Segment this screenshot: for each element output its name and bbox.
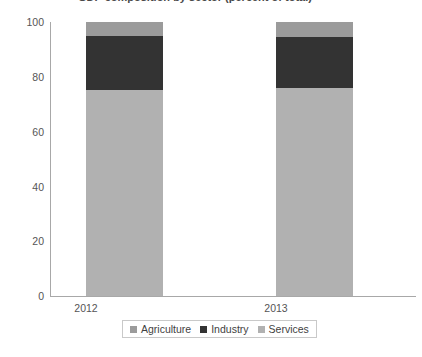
y-axis-tick-labels: 100 80 60 40 20 0 [0,0,44,357]
legend-item-agriculture[interactable]: Agriculture [130,324,191,335]
chart-title-text: GDP composition by sector (percent of to… [78,0,312,3]
legend-item-services[interactable]: Services [258,324,309,335]
bar-segment-services-2013 [276,88,353,296]
bar-segment-services-2012 [86,90,163,296]
bar-segment-agriculture-2012 [86,22,163,36]
stacked-bar-chart: GDP composition by sector (percent of to… [0,0,422,357]
y-tick-label-60: 60 [4,127,44,137]
x-axis-label-2013: 2013 [231,302,321,314]
legend-swatch-industry-icon [200,326,207,333]
legend-item-industry[interactable]: Industry [200,324,248,335]
chart-title-clipped: GDP composition by sector (percent of to… [0,0,422,12]
legend-swatch-agriculture-icon [130,326,137,333]
y-tick-label-40: 40 [4,182,44,192]
y-tick-label-100: 100 [4,17,44,27]
legend-label-services: Services [269,324,309,335]
y-tick-label-20: 20 [4,236,44,246]
legend-label-industry: Industry [211,324,248,335]
bar-segment-industry-2013 [276,37,353,88]
bar-column-2013 [276,22,353,296]
x-axis-label-2012: 2012 [41,302,131,314]
x-axis-line [50,296,416,297]
bar-segment-industry-2012 [86,36,163,90]
bar-segment-agriculture-2013 [276,22,353,37]
legend-label-agriculture: Agriculture [141,324,191,335]
bar-column-2012 [86,22,163,296]
chart-legend: Agriculture Industry Services [122,320,317,338]
legend-swatch-services-icon [258,326,265,333]
y-tick-label-80: 80 [4,72,44,82]
y-tick-label-0: 0 [4,291,44,301]
plot-area [50,22,416,296]
